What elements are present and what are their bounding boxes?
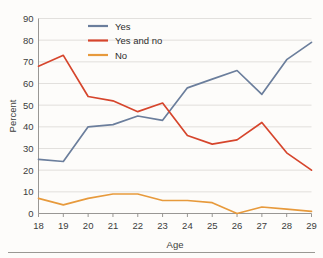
x-axis-tick-label: 24: [182, 220, 193, 231]
y-axis-tick-label: 50: [23, 100, 34, 111]
legend-label-no: No: [115, 50, 127, 61]
y-axis-tick-label: 90: [23, 13, 34, 24]
x-axis-tick-label: 18: [33, 220, 44, 231]
chart-figure: 0102030405060708090 18192021222324252627…: [0, 0, 323, 258]
x-axis-tick-label: 27: [257, 220, 268, 231]
x-axis-tick-label: 23: [157, 220, 168, 231]
legend-label-yes-and-no: Yes and no: [115, 35, 162, 46]
x-axis-tick-label: 20: [83, 220, 94, 231]
y-axis-tick-label: 80: [23, 35, 34, 46]
y-axis-tick-label: 10: [23, 186, 34, 197]
legend-label-yes: Yes: [115, 21, 131, 32]
y-axis-tick-label: 30: [23, 143, 34, 154]
y-axis-tick-label: 40: [23, 121, 34, 132]
y-axis-tick-label: 20: [23, 165, 34, 176]
y-axis-tick-label: 70: [23, 56, 34, 67]
x-axis-tick-label: 28: [281, 220, 292, 231]
y-axis-tick-label: 60: [23, 78, 34, 89]
x-axis-title: Age: [167, 239, 184, 250]
x-axis-tick-label: 22: [132, 220, 143, 231]
x-axis-tick-label: 21: [108, 220, 119, 231]
x-axis-tick-label: 25: [207, 220, 218, 231]
x-axis-tick-label: 19: [58, 220, 69, 231]
x-axis-tick-label: 26: [232, 220, 243, 231]
x-axis-tick-label: 29: [306, 220, 317, 231]
line-chart: 0102030405060708090 18192021222324252627…: [0, 0, 323, 258]
y-axis-tick-label: 0: [28, 208, 33, 219]
y-axis-title: Percent: [7, 99, 18, 132]
